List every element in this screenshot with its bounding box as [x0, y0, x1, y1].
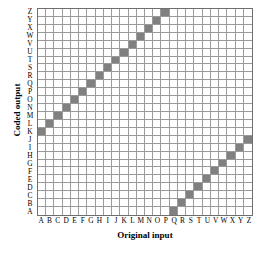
- cipher-cell: [129, 17, 137, 25]
- cipher-cell: [46, 167, 54, 175]
- x-tick-T: T: [195, 217, 203, 229]
- cipher-cell: [87, 152, 95, 160]
- cipher-cell: [96, 167, 104, 175]
- cipher-cell: [170, 72, 178, 80]
- cipher-cell: [46, 33, 54, 41]
- cipher-cell: [170, 49, 178, 57]
- cipher-cell: [219, 88, 227, 96]
- cipher-cell: [194, 49, 202, 57]
- x-tick-B: B: [45, 217, 53, 229]
- cipher-cell: [178, 152, 186, 160]
- cipher-cell-filled: [112, 57, 120, 65]
- cipher-cell: [170, 88, 178, 96]
- cipher-cell: [244, 25, 252, 33]
- cipher-cell: [203, 88, 211, 96]
- cipher-cell: [137, 128, 145, 136]
- cipher-cell: [178, 207, 186, 215]
- cipher-cell: [236, 88, 244, 96]
- x-tick-A: A: [37, 217, 45, 229]
- cipher-cell: [219, 64, 227, 72]
- cipher-cell: [145, 120, 153, 128]
- cipher-cell: [219, 207, 227, 215]
- cipher-cell: [104, 88, 112, 96]
- cipher-cell: [63, 136, 71, 144]
- cipher-cell: [63, 167, 71, 175]
- cipher-cell: [79, 96, 87, 104]
- cipher-cell: [219, 175, 227, 183]
- cipher-cell: [96, 25, 104, 33]
- cipher-cell: [211, 57, 219, 65]
- cipher-cell: [79, 167, 87, 175]
- cipher-cell: [96, 41, 104, 49]
- cipher-cell: [194, 17, 202, 25]
- cipher-cell: [211, 207, 219, 215]
- cipher-cell: [219, 191, 227, 199]
- cipher-cell: [219, 57, 227, 65]
- cipher-cell: [79, 152, 87, 160]
- cipher-cell-filled: [63, 104, 71, 112]
- cipher-cell: [170, 191, 178, 199]
- cipher-cell: [112, 136, 120, 144]
- cipher-cell: [236, 120, 244, 128]
- cipher-cell: [203, 144, 211, 152]
- cipher-cell: [129, 9, 137, 17]
- cipher-cell: [120, 136, 128, 144]
- cipher-cell: [71, 136, 79, 144]
- cipher-cell: [46, 88, 54, 96]
- cipher-cell: [46, 9, 54, 17]
- cipher-cell: [244, 112, 252, 120]
- cipher-cell: [203, 199, 211, 207]
- cipher-cell: [79, 41, 87, 49]
- cipher-cell: [104, 191, 112, 199]
- cipher-cell: [194, 144, 202, 152]
- x-tick-Z: Z: [245, 217, 253, 229]
- cipher-cell: [129, 175, 137, 183]
- cipher-cell: [211, 199, 219, 207]
- cipher-cell: [63, 120, 71, 128]
- cipher-cell: [186, 80, 194, 88]
- cipher-cell: [227, 136, 235, 144]
- cipher-cell: [71, 88, 79, 96]
- x-tick-K: K: [120, 217, 128, 229]
- cipher-cell: [129, 152, 137, 160]
- cipher-cell-filled: [96, 72, 104, 80]
- cipher-cell: [104, 152, 112, 160]
- cipher-cell: [38, 144, 46, 152]
- cipher-cell-filled: [153, 17, 161, 25]
- cipher-cell: [170, 136, 178, 144]
- cipher-cell: [161, 88, 169, 96]
- cipher-cell: [54, 25, 62, 33]
- cipher-cell: [219, 49, 227, 57]
- cipher-cell: [186, 88, 194, 96]
- cipher-cell: [87, 33, 95, 41]
- cipher-cell: [96, 57, 104, 65]
- cipher-cell: [38, 96, 46, 104]
- cipher-cell: [54, 167, 62, 175]
- cipher-cell: [46, 72, 54, 80]
- cipher-cell: [87, 120, 95, 128]
- cipher-cell: [244, 9, 252, 17]
- cipher-cell: [79, 128, 87, 136]
- cipher-cell: [145, 183, 153, 191]
- cipher-cell: [211, 128, 219, 136]
- cipher-cell: [178, 120, 186, 128]
- x-axis-tick-labels: ABCDEFGHIJKLMNOPQRSTUVWXYZ: [37, 217, 253, 229]
- cipher-cell: [161, 41, 169, 49]
- cipher-cell: [129, 80, 137, 88]
- cipher-cell: [203, 112, 211, 120]
- cipher-cell: [211, 120, 219, 128]
- cipher-cell: [120, 80, 128, 88]
- cipher-cell: [203, 128, 211, 136]
- cipher-cell: [186, 41, 194, 49]
- cipher-cell: [236, 136, 244, 144]
- cipher-cell: [112, 175, 120, 183]
- cipher-cell: [79, 17, 87, 25]
- cipher-cell: [145, 191, 153, 199]
- cipher-cell: [129, 128, 137, 136]
- cipher-cell: [161, 96, 169, 104]
- cipher-cell: [211, 64, 219, 72]
- cipher-cell: [79, 112, 87, 120]
- cipher-cell: [63, 57, 71, 65]
- cipher-cell: [120, 9, 128, 17]
- cipher-cell: [211, 25, 219, 33]
